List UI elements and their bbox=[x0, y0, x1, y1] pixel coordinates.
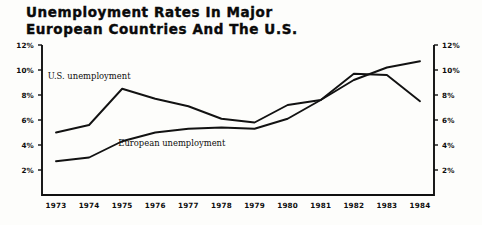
x-axis-year-label: 1975 bbox=[112, 201, 133, 210]
x-axis-year-label: 1973 bbox=[46, 201, 67, 210]
x-axis-year-label: 1981 bbox=[310, 201, 331, 210]
series-annotation: U.S. unemployment bbox=[48, 71, 132, 81]
x-axis-year-label: 1978 bbox=[211, 201, 232, 210]
y-axis-label-right: 12% bbox=[442, 41, 460, 50]
x-axis-year-label: 1983 bbox=[377, 201, 398, 210]
y-axis-left-labels: 2%4%6%8%10%12% bbox=[16, 41, 34, 175]
x-axis-year-label: 1984 bbox=[410, 201, 431, 210]
series-annotation: European unemployment bbox=[118, 138, 226, 148]
y-axis-label-left: 8% bbox=[21, 91, 34, 100]
x-axis-year-label: 1976 bbox=[145, 201, 166, 210]
x-axis-year-label: 1982 bbox=[343, 201, 364, 210]
y-axis-label-right: 4% bbox=[442, 141, 455, 150]
y-axis-label-right: 8% bbox=[442, 91, 455, 100]
x-axis-year-label: 1977 bbox=[178, 201, 199, 210]
y-axis-label-right: 10% bbox=[442, 66, 460, 75]
chart-figure: Unemployment Rates In Major European Cou… bbox=[0, 0, 482, 225]
y-axis-label-left: 4% bbox=[21, 141, 34, 150]
y-axis-label-left: 6% bbox=[21, 116, 34, 125]
x-axis-year-labels: 1973197419751976197719781979198019811982… bbox=[46, 201, 431, 210]
chart-plot-area: 2%4%6%8%10%12% 2%4%6%8%10%12% 1973197419… bbox=[0, 0, 482, 225]
y-axis-label-left: 10% bbox=[16, 66, 34, 75]
x-axis-year-label: 1974 bbox=[79, 201, 100, 210]
y-axis-label-left: 12% bbox=[16, 41, 34, 50]
series-line bbox=[56, 74, 420, 133]
y-axis-right-labels: 2%4%6%8%10%12% bbox=[442, 41, 460, 175]
y-axis-label-right: 2% bbox=[442, 166, 455, 175]
x-axis-year-label: 1979 bbox=[244, 201, 265, 210]
y-axis-label-left: 2% bbox=[21, 166, 34, 175]
y-axis-label-right: 6% bbox=[442, 116, 455, 125]
x-axis-year-label: 1980 bbox=[277, 201, 298, 210]
